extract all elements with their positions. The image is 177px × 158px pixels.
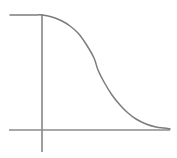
figure-canvas <box>0 0 177 158</box>
chart-background <box>0 0 177 158</box>
sigmoid-curve-chart <box>0 0 177 158</box>
